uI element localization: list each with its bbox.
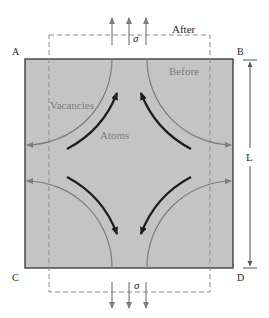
- after-label: After: [172, 24, 195, 35]
- stress-arrows-top: [112, 18, 146, 45]
- atoms-label: Atoms: [100, 130, 129, 141]
- corner-label-a: A: [12, 46, 19, 57]
- stress-label-top: σ: [133, 33, 138, 44]
- diffusion-creep-diagram: [0, 0, 269, 318]
- corner-label-b: B: [237, 46, 244, 57]
- before-label: Before: [169, 66, 199, 77]
- length-dimension: [243, 60, 257, 268]
- corner-label-c: C: [12, 272, 19, 283]
- before-square: [25, 59, 233, 268]
- vacancies-label: Vacancies: [50, 100, 94, 111]
- length-label: L: [246, 152, 253, 163]
- stress-arrows-bottom: [112, 282, 146, 308]
- corner-label-d: D: [237, 272, 244, 283]
- stress-label-bottom: σ: [134, 280, 139, 291]
